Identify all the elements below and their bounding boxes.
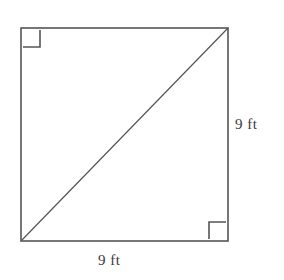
geometry-figure: 9 ft 9 ft	[0, 0, 284, 280]
right-angle-marker-top-left	[23, 30, 40, 47]
side-length-label-bottom: 9 ft	[98, 253, 120, 268]
geometry-canvas	[0, 0, 284, 280]
side-length-label-right: 9 ft	[235, 117, 257, 132]
diagonal-line	[21, 28, 228, 241]
right-angle-marker-bottom-right	[209, 222, 226, 239]
